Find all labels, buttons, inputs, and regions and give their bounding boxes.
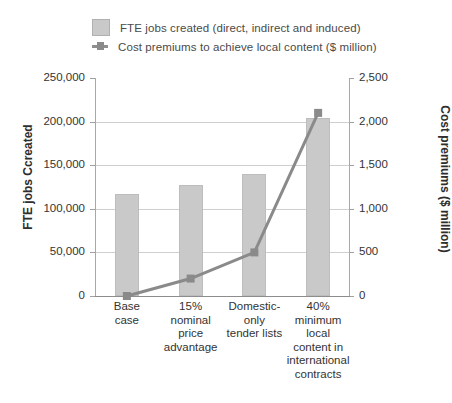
x-axis-tick-label: 40%minimumlocalcontent ininternationalco…	[286, 300, 350, 381]
legend-label-line-series: Cost premiums to achieve local content (…	[118, 41, 377, 53]
x-axis-tick-label: Basecase	[95, 300, 159, 327]
y-axis-right-tick-label: 0	[359, 289, 365, 301]
y-axis-left-tick-label: 100,000	[0, 202, 85, 214]
y-axis-right-tick-label: 2,500	[359, 71, 388, 83]
line-marker	[187, 275, 195, 283]
line-marker	[250, 248, 258, 256]
legend-square-swatch-icon	[92, 19, 110, 36]
y-axis-left-tick-label: 50,000	[0, 245, 85, 257]
legend-label-bar-series: FTE jobs created (direct, indirect and i…	[120, 22, 361, 34]
line-marker	[123, 292, 131, 300]
y-axis-right-tick-label: 2,000	[359, 115, 388, 127]
x-axis-tick-label: Domestic-onlytender lists	[223, 300, 287, 341]
y-axis-left-tick-label: 0	[0, 289, 85, 301]
y-axis-left-tick-label: 150,000	[0, 158, 85, 170]
plot-area	[95, 78, 350, 296]
legend-line-marker-icon	[92, 39, 108, 54]
line-path	[127, 113, 318, 296]
chart-legend: FTE jobs created (direct, indirect and i…	[92, 18, 377, 56]
legend-item-line-series: Cost premiums to achieve local content (…	[92, 37, 377, 56]
legend-item-bar-series: FTE jobs created (direct, indirect and i…	[92, 18, 377, 37]
x-axis-tick-label: 15%nominalpriceadvantage	[159, 300, 223, 354]
y-axis-right-tick-label: 1,000	[359, 202, 388, 214]
line-marker	[314, 109, 322, 117]
y-axis-right-tick-label: 500	[359, 245, 378, 257]
y-axis-left-tick-label: 250,000	[0, 71, 85, 83]
y-axis-left-tick-label: 200,000	[0, 115, 85, 127]
y-axis-right-tick-label: 1,500	[359, 158, 388, 170]
y-axis-right-title: Cost premiums ($ million)	[438, 89, 452, 269]
line-series-group	[95, 78, 350, 297]
